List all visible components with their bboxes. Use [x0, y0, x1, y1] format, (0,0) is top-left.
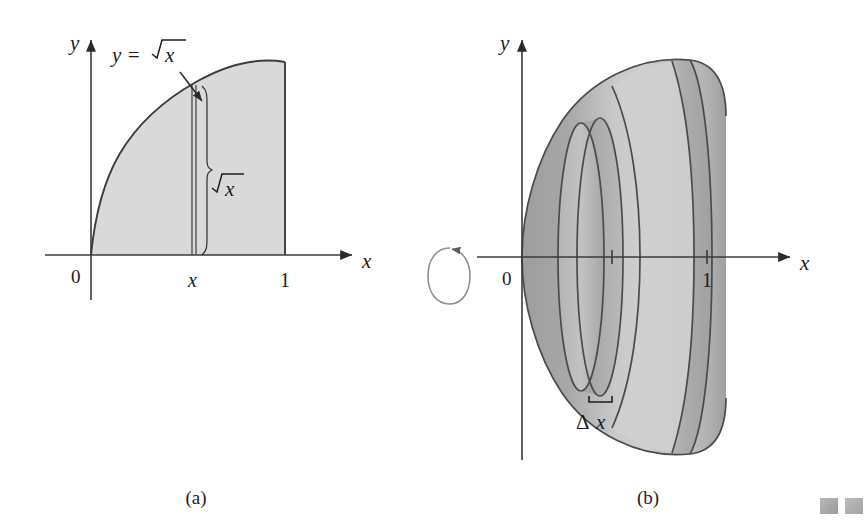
panel-a-y-axis-label: y [68, 31, 80, 55]
panel-b-caption: (b) [637, 487, 659, 509]
panel-b-x-axis-label: x [799, 251, 810, 275]
panel-a-xtick-1: 1 [280, 269, 290, 291]
figure-root: y x 0 x 1 y = x x (a) [0, 0, 865, 532]
curve-label-lhs: y = [110, 43, 141, 67]
panel-a-caption: (a) [185, 487, 206, 509]
scan-artifact-square-2 [845, 498, 863, 514]
panel-a-origin-label: 0 [71, 266, 81, 287]
panel-b-xtick-1: 1 [702, 269, 712, 291]
delta-x-symbol: Δ [576, 410, 590, 434]
strip-label-radicand: x [224, 177, 235, 201]
panel-b: y x 0 1 Δ x (b) [477, 31, 810, 509]
curve-label-radicand: x [164, 43, 175, 67]
panel-a-xtick-x: x [187, 269, 197, 291]
rotation-arrow [428, 248, 470, 304]
panel-a-x-axis-label: x [361, 249, 372, 273]
panel-b-y-axis-label: y [498, 31, 510, 55]
panel-b-origin-label: 0 [502, 268, 512, 289]
panel-a: y x 0 x 1 y = x x (a) [45, 31, 372, 509]
delta-x-variable: x [595, 410, 606, 434]
figure-svg: y x 0 x 1 y = x x (a) [0, 0, 865, 532]
scan-artifact-square-1 [820, 498, 838, 514]
curve-label-group: y = x [110, 40, 186, 67]
region-under-curve [91, 61, 285, 255]
